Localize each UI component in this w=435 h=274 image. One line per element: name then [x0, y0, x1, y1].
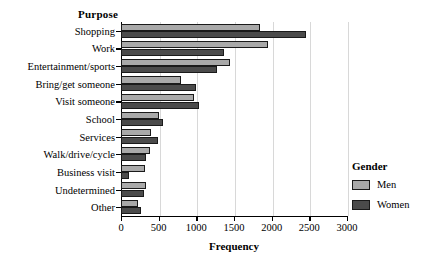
x-axis-tick-mark	[159, 216, 160, 221]
y-axis-title: Purpose	[0, 8, 118, 20]
legend-title: Gender	[352, 160, 409, 172]
legend: Gender MenWomen	[352, 160, 409, 219]
bar-chart: Purpose ShoppingWorkEntertainment/sports…	[0, 0, 435, 274]
y-axis-tick-label: Bring/get someone	[0, 78, 115, 89]
y-axis-tick-label: Other	[0, 202, 115, 213]
x-axis-tick-mark	[196, 216, 197, 221]
legend-items: MenWomen	[352, 179, 409, 210]
x-axis-title: Frequency	[121, 240, 347, 252]
y-axis-tick-label: Services	[0, 131, 115, 142]
x-axis-tick-mark	[234, 216, 235, 221]
bar-women	[121, 119, 163, 126]
legend-label: Men	[377, 179, 396, 190]
x-axis-tick-label: 1000	[186, 222, 207, 233]
y-axis-tick-label: Entertainment/sports	[0, 61, 115, 72]
legend-label: Women	[377, 199, 409, 210]
x-axis-tick-label: 500	[151, 222, 167, 233]
bar-men	[121, 112, 159, 119]
bar-men	[121, 59, 230, 66]
category-row: Work	[0, 40, 435, 58]
x-axis-tick-label: 3000	[337, 222, 358, 233]
x-axis-tick-mark	[347, 216, 348, 221]
y-axis-tick-label: Undetermined	[0, 184, 115, 195]
bar-men	[121, 76, 181, 83]
bar-men	[121, 165, 145, 172]
bar-women	[121, 190, 144, 197]
category-row: Entertainment/sports	[0, 57, 435, 75]
bar-women	[121, 172, 129, 179]
x-axis-tick-mark	[309, 216, 310, 221]
category-row: Bring/get someone	[0, 75, 435, 93]
y-axis-tick-label: Walk/drive/cycle	[0, 149, 115, 160]
y-axis-tick-label: Shopping	[0, 25, 115, 36]
y-axis-tick-label: Work	[0, 43, 115, 54]
category-row: Shopping	[0, 22, 435, 40]
x-axis-tick-mark	[272, 216, 273, 221]
x-axis-tick-label: 1500	[224, 222, 245, 233]
bar-men	[121, 147, 150, 154]
bar-women	[121, 31, 306, 38]
category-row: Visit someone	[0, 93, 435, 111]
legend-swatch-women	[352, 200, 370, 210]
category-row: Services	[0, 128, 435, 146]
bar-men	[121, 182, 146, 189]
y-axis-tick-label: Visit someone	[0, 96, 115, 107]
x-axis-tick-label: 2500	[299, 222, 320, 233]
bar-women	[121, 66, 217, 73]
category-row: School	[0, 110, 435, 128]
y-axis-tick-label: Business visit	[0, 166, 115, 177]
legend-item-women: Women	[352, 199, 409, 210]
y-axis-tick-label: School	[0, 113, 115, 124]
bar-women	[121, 154, 146, 161]
x-axis-tick-mark	[121, 216, 122, 221]
bar-women	[121, 49, 224, 56]
x-axis-tick-label: 0	[118, 222, 123, 233]
bar-women	[121, 84, 196, 91]
legend-item-men: Men	[352, 179, 409, 190]
bar-women	[121, 137, 158, 144]
bar-men	[121, 200, 138, 207]
legend-swatch-men	[352, 180, 370, 190]
bar-women	[121, 207, 141, 214]
bar-men	[121, 129, 151, 136]
bar-men	[121, 94, 194, 101]
x-axis-tick-label: 2000	[261, 222, 282, 233]
bar-men	[121, 24, 260, 31]
bar-women	[121, 102, 199, 109]
bar-men	[121, 41, 268, 48]
